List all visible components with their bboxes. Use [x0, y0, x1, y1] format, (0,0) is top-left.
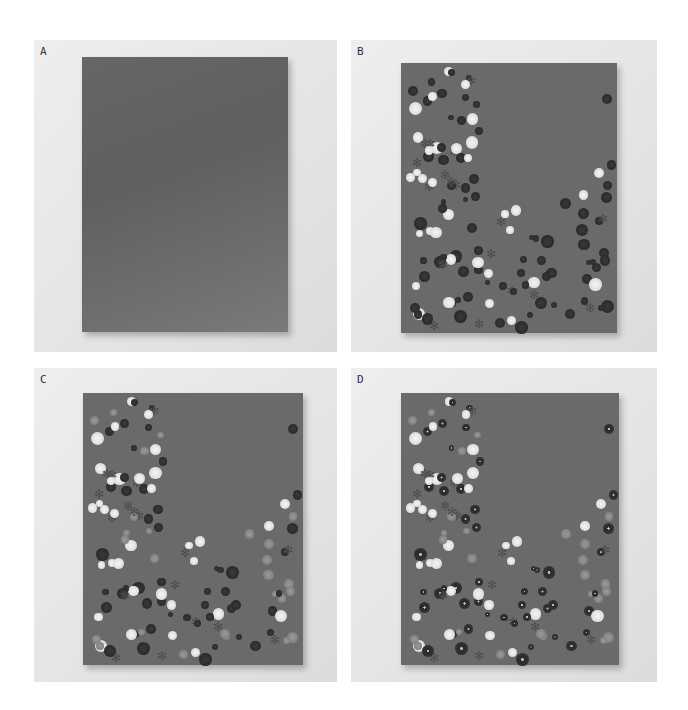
paint-dot [506, 226, 514, 234]
paint-dot [110, 409, 117, 416]
paint-dot [602, 587, 611, 596]
star-shape: ✻ [487, 579, 497, 591]
paint-dot [474, 246, 483, 255]
paint-dot [91, 432, 104, 445]
paint-dot [512, 536, 522, 546]
star-shape: ✻ [170, 579, 180, 591]
paint-dot [456, 629, 462, 635]
paint-dot [609, 490, 619, 500]
paint-dot [551, 302, 557, 308]
paint-dot [293, 490, 303, 500]
paint-dot [98, 561, 105, 568]
paint-dot [449, 399, 456, 406]
paint-dot [607, 160, 617, 170]
paint-dot [439, 535, 447, 543]
paint-dot [600, 255, 610, 265]
star-shape: ✻ [412, 488, 422, 500]
paint-dot [448, 69, 455, 76]
paint-dot [168, 612, 173, 617]
paint-dot [420, 257, 427, 264]
paint-dot [451, 143, 462, 154]
paint-dot [431, 558, 442, 569]
paint-dot [458, 447, 467, 456]
paint-dot [221, 587, 230, 596]
paint-dot [167, 600, 176, 609]
paint-dot [449, 445, 455, 451]
star-shape: ✻ [529, 289, 539, 301]
paint-dot [517, 269, 525, 277]
paint-dot [263, 570, 273, 580]
paint-dot [578, 239, 590, 251]
paint-dot [147, 484, 156, 493]
star-shape: ✻ [530, 621, 540, 633]
paint-dot [462, 424, 469, 431]
paint-dot [113, 558, 124, 569]
paint-dot [552, 634, 558, 640]
paint-dot [461, 80, 470, 89]
star-shape: ✻ [598, 213, 608, 225]
star-shape: ✻ [438, 590, 448, 602]
paint-dot [500, 614, 507, 621]
paint-dot [156, 588, 167, 599]
paint-dot [518, 601, 526, 609]
paint-dot [463, 292, 473, 302]
paint-dot [150, 444, 161, 455]
panel-label-c: C [40, 373, 47, 386]
star-shape: ✻ [157, 650, 167, 662]
paint-dot [516, 653, 529, 666]
dotted-board-b: ✻✻✻✻✻✻✻✻✻✻✻✻✻✻✻✻✻✻ [401, 63, 617, 333]
paint-dot [231, 600, 241, 610]
paint-dot [408, 86, 418, 96]
star-shape: ✻ [600, 544, 610, 556]
paint-dot [476, 457, 484, 465]
paint-dot [154, 523, 163, 532]
paint-dot [467, 467, 479, 479]
paint-dot [264, 539, 274, 549]
star-shape: ✻ [474, 650, 484, 662]
paint-dot [123, 530, 129, 536]
paint-dot [602, 94, 612, 104]
paint-dot [508, 648, 517, 657]
paint-dot [461, 183, 470, 192]
paint-dot [226, 566, 239, 579]
paint-dot [529, 235, 535, 241]
star-shape: ✻ [446, 176, 456, 188]
paint-dot [439, 486, 449, 496]
paint-dot [289, 512, 297, 520]
paint-dot [120, 419, 129, 428]
paint-dot [543, 566, 556, 579]
panel-label-d: D [357, 373, 364, 386]
paint-dot [467, 444, 478, 455]
paint-dot [471, 192, 480, 201]
paint-dot [469, 174, 479, 184]
paint-dot [250, 641, 261, 652]
paint-dot [472, 257, 483, 268]
paint-dot [428, 178, 437, 187]
paint-dot [264, 521, 274, 531]
paint-dot [458, 266, 469, 277]
star-shape: ✻ [412, 157, 422, 169]
panel-label-b: B [357, 45, 364, 58]
paint-dot [286, 587, 295, 596]
paint-dot [428, 409, 435, 416]
paint-dot [204, 588, 211, 595]
paint-dot [592, 590, 598, 596]
paint-dot [538, 587, 547, 596]
paint-dot [179, 650, 188, 659]
paint-dot [159, 457, 167, 465]
paint-dot [462, 94, 469, 101]
paint-dot [138, 629, 144, 635]
paint-dot [603, 181, 612, 190]
paint-dot [428, 509, 437, 518]
paint-dot [463, 197, 469, 203]
paint-dot [527, 312, 533, 318]
paint-dot [409, 432, 422, 445]
paint-dot [191, 648, 200, 657]
paint-dot [96, 642, 104, 650]
paint-dot [601, 192, 612, 203]
dotted-board-c: ✻✻✻✻✻✻✻✻✻✻✻✻✻✻✻✻✻✻ [83, 393, 303, 665]
paint-dot [414, 310, 422, 318]
paint-dot [605, 512, 613, 520]
paint-dot [137, 642, 150, 655]
paint-dot [236, 634, 242, 640]
